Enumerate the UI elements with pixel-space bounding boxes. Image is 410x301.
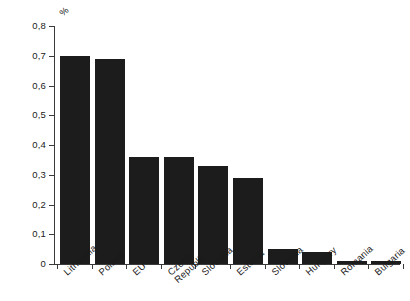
y-tick-mark [49,145,54,146]
x-tick-mark [368,264,369,269]
y-tick-mark [49,86,54,87]
y-tick-label: 0,1 [16,229,46,238]
x-tick-mark [92,264,93,269]
y-tick-label: 0,6 [16,81,46,90]
y-tick-label: 0,5 [16,110,46,119]
x-tick-mark [161,264,162,269]
y-tick-label: 0,2 [16,200,46,209]
y-axis-unit-label: % [57,4,71,18]
x-tick-mark [403,264,404,269]
y-tick-mark [49,175,54,176]
y-tick-label: 0,3 [16,170,46,179]
y-tick-label: 0,4 [16,140,46,149]
bar [95,59,125,264]
x-tick-mark [126,264,127,269]
y-tick-label: 0 [16,259,46,268]
y-axis-line [54,26,55,265]
x-tick-mark [230,264,231,269]
x-tick-mark [57,264,58,269]
y-tick-mark [49,115,54,116]
x-tick-mark [299,264,300,269]
y-tick-label: 0,7 [16,51,46,60]
bar [60,56,90,264]
x-tick-mark [334,264,335,269]
y-tick-mark [49,205,54,206]
y-tick-label: 0,8 [16,21,46,30]
y-tick-mark [49,56,54,57]
y-tick-mark [49,234,54,235]
y-tick-mark [49,26,54,27]
x-tick-mark [265,264,266,269]
bar-chart: % 00,10,20,30,40,50,60,70,8 LithuaniaPol… [0,0,410,301]
bar [129,157,159,264]
y-tick-mark [49,264,54,265]
